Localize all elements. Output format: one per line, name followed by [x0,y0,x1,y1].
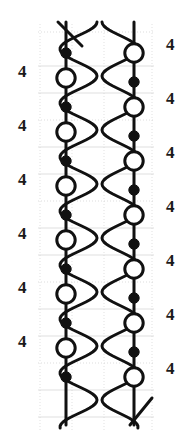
row-label-right-5: 4 [166,306,175,323]
node-open [57,339,75,357]
node-open [125,368,143,386]
node-solid [129,293,139,303]
node-solid [129,185,139,195]
node-solid [61,48,71,58]
row-label-right-2: 4 [166,144,175,161]
diagram-canvas: 444444 4444444 [0,0,190,445]
node-open [125,152,143,170]
node-open [125,206,143,224]
node-solid [61,156,71,166]
node-open [57,69,75,87]
row-label-left-5: 4 [18,333,27,350]
node-solid [129,131,139,141]
node-solid [129,77,139,87]
node-open [125,260,143,278]
node-open [57,285,75,303]
row-label-right-6: 4 [166,360,175,377]
node-solid [129,347,139,357]
row-label-right-4: 4 [166,252,175,269]
node-solid [61,318,71,328]
node-open [125,314,143,332]
row-label-right-1: 4 [166,90,175,107]
braid-diagram-svg [0,0,190,445]
row-label-left-4: 4 [18,279,27,296]
row-label-right-3: 4 [166,198,175,215]
node-open [57,123,75,141]
node-solid [61,264,71,274]
node-solid [61,210,71,220]
node-open [125,98,143,116]
row-label-left-0: 4 [18,63,27,80]
row-label-left-3: 4 [18,225,27,242]
row-label-left-2: 4 [18,171,27,188]
node-solid [61,372,71,382]
node-open [125,44,143,62]
node-open [57,231,75,249]
node-solid [129,239,139,249]
node-solid [61,102,71,112]
row-label-left-1: 4 [18,117,27,134]
node-open [57,177,75,195]
row-label-right-0: 4 [166,36,175,53]
